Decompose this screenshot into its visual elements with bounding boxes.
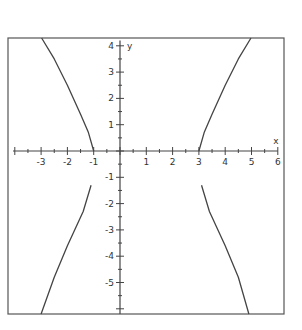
tick-labels: -3-2-11234564321-1-2-3-4-5xy	[37, 41, 281, 288]
hyperbola-branch	[199, 38, 251, 151]
y-axis-label: y	[127, 41, 133, 51]
hyperbola-plot: -3-2-11234564321-1-2-3-4-5xy	[0, 0, 302, 330]
y-tick-label: 2	[108, 93, 114, 103]
curves	[41, 38, 251, 314]
x-tick-label: 3	[196, 157, 202, 167]
axes	[13, 41, 278, 315]
x-tick-label: -1	[89, 157, 98, 167]
hyperbola-branch	[41, 185, 91, 314]
y-tick-label: -4	[105, 251, 114, 261]
y-tick-label: 4	[108, 41, 114, 51]
hyperbola-branch	[42, 38, 94, 151]
x-tick-label: 5	[249, 157, 255, 167]
x-tick-label: 6	[275, 157, 281, 167]
x-axis-label: x	[273, 136, 279, 146]
x-tick-label: 4	[222, 157, 228, 167]
y-tick-label: 3	[108, 67, 114, 77]
y-tick-label: 1	[108, 120, 114, 130]
hyperbola-branch	[202, 185, 249, 314]
x-tick-label: 1	[143, 157, 149, 167]
plot-frame	[8, 38, 284, 314]
x-tick-label: 2	[170, 157, 176, 167]
y-tick-label: -3	[105, 225, 114, 235]
y-tick-label: -2	[105, 199, 114, 209]
y-tick-label: -1	[105, 172, 114, 182]
x-tick-label: -3	[37, 157, 46, 167]
x-tick-label: -2	[63, 157, 72, 167]
y-tick-label: -5	[105, 278, 114, 288]
